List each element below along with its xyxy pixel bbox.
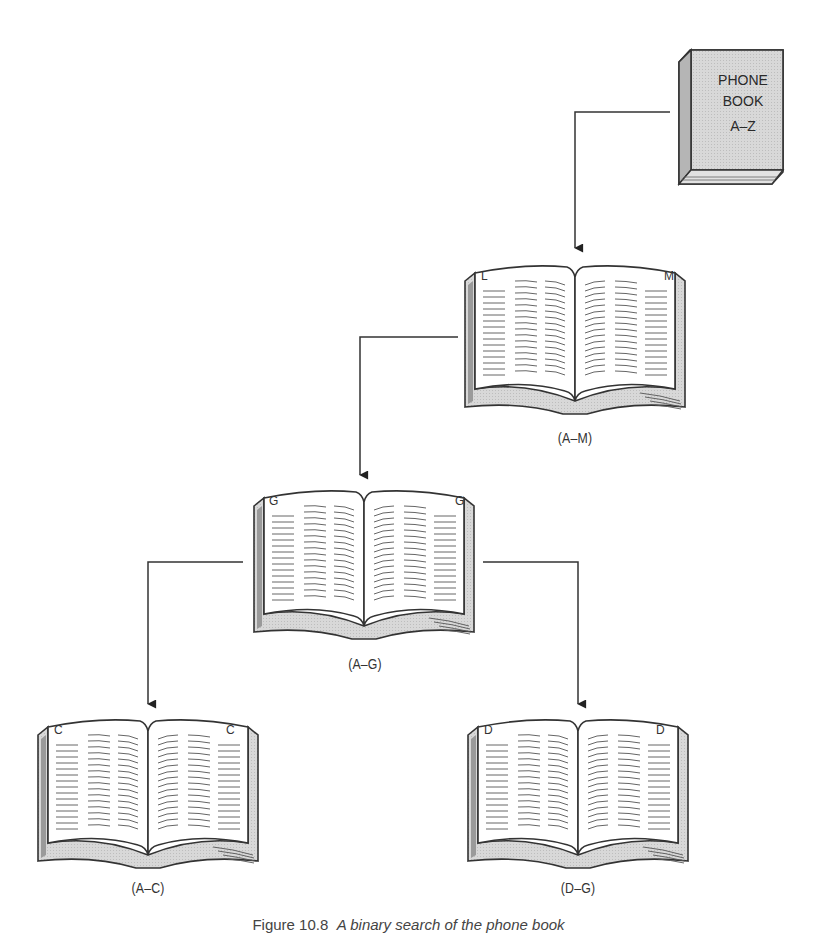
range-label-a-c: (A–C) — [97, 880, 199, 896]
cover-line: BOOK — [698, 91, 788, 112]
cover-line: A–Z — [698, 116, 788, 137]
page-letter-left: C — [54, 723, 63, 737]
figure-number: Figure 10.8 — [252, 916, 328, 933]
range-label-a-g: (A–G) — [314, 656, 416, 672]
cover-line: PHONE — [698, 70, 788, 91]
page-letter-left: G — [269, 494, 278, 508]
open-book-a-c-icon — [38, 720, 258, 868]
open-book-a-g-icon — [254, 491, 474, 639]
page-letter-right: M — [664, 269, 674, 283]
open-book-d-g-icon — [468, 720, 688, 868]
page-letter-left: L — [481, 269, 488, 283]
page-letter-right: D — [656, 723, 665, 737]
range-label-a-m: (A–M) — [524, 430, 626, 446]
open-book-a-m-icon — [465, 266, 685, 414]
phone-book-title: PHONE BOOK A–Z — [698, 70, 788, 137]
range-label-d-g: (D–G) — [527, 880, 629, 896]
page-letter-left: D — [484, 723, 493, 737]
page-letter-right: G — [455, 494, 464, 508]
figure-caption-text: A binary search of the phone book — [337, 916, 565, 933]
page-letter-right: C — [226, 723, 235, 737]
figure-caption: Figure 10.8 A binary search of the phone… — [0, 916, 817, 933]
